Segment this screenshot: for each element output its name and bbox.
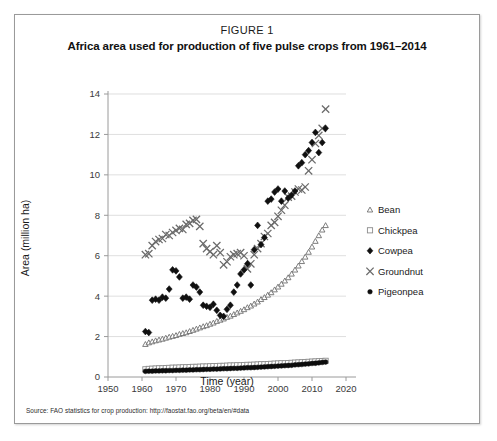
legend-item-bean: Bean — [367, 204, 400, 215]
data-point — [323, 125, 329, 132]
legend-label: Pigeonpea — [378, 286, 424, 297]
y-tick-label: 0 — [95, 371, 100, 382]
data-point — [309, 244, 314, 249]
y-tick-label: 4 — [95, 291, 100, 302]
source-note: Source: FAO statistics for crop producti… — [26, 407, 249, 414]
data-point — [213, 242, 220, 249]
legend-label: Bean — [378, 204, 400, 215]
data-point — [214, 307, 220, 314]
y-tick-label: 6 — [95, 250, 100, 261]
figure-title: Africa area used for production of five … — [15, 38, 479, 55]
x-tick-label: 1960 — [131, 383, 152, 393]
legend-marker-square-icon — [367, 228, 372, 233]
figure-card: FIGURE 1 Africa area used for production… — [14, 14, 480, 424]
x-tick-label: 1950 — [97, 383, 118, 393]
legend-label: Groundnut — [378, 266, 423, 277]
x-axis-label: Time (year) — [200, 375, 253, 387]
y-tick-label: 2 — [95, 331, 100, 342]
x-tick-label: 2010 — [301, 383, 322, 393]
data-point — [200, 240, 207, 247]
data-points — [142, 106, 329, 374]
data-point — [223, 258, 230, 265]
data-point — [217, 249, 224, 256]
data-point — [322, 106, 329, 113]
data-point — [255, 222, 261, 229]
data-point — [234, 282, 240, 289]
data-point — [308, 156, 315, 163]
grid-lines — [108, 94, 346, 337]
x-tick-label: 2020 — [335, 383, 356, 393]
series-groundnut — [142, 106, 329, 273]
legend-item-chickpea: Chickpea — [367, 225, 418, 236]
data-point — [282, 188, 288, 195]
data-point — [323, 360, 328, 365]
chart-plot-area: 02468101214 1950196019701980199020002010… — [15, 63, 481, 393]
legend-marker-triangle-icon — [367, 207, 372, 212]
figure-number: FIGURE 1 — [15, 23, 479, 38]
scatter-chart: 02468101214 1950196019701980199020002010… — [15, 63, 481, 393]
figure-header: FIGURE 1 Africa area used for production… — [15, 23, 479, 55]
data-point — [196, 223, 203, 230]
chart-legend: BeanChickpeaCowpeaGroundnutPigeonpea — [366, 204, 424, 297]
y-tick-label: 8 — [95, 210, 100, 221]
legend-marker-cross-icon — [366, 268, 373, 275]
data-point — [210, 251, 217, 258]
legend-marker-circle-icon — [368, 290, 373, 295]
data-point — [319, 139, 325, 146]
data-point — [313, 238, 318, 243]
legend-item-groundnut: Groundnut — [366, 266, 423, 277]
data-point — [176, 274, 182, 281]
data-point — [305, 167, 312, 174]
data-point — [197, 289, 203, 296]
data-point — [248, 282, 254, 289]
legend-item-pigeonpea: Pigeonpea — [368, 286, 424, 297]
legend-label: Chickpea — [378, 225, 418, 236]
y-axis-label: Area (million ha) — [19, 200, 31, 276]
data-point — [302, 254, 307, 259]
x-tick-label: 1970 — [165, 383, 186, 393]
y-tick-label: 14 — [89, 88, 100, 99]
data-point — [316, 233, 321, 238]
x-tick-label: 2000 — [267, 383, 288, 393]
data-point — [316, 149, 322, 156]
legend-item-cowpea: Cowpea — [367, 245, 413, 256]
data-point — [166, 286, 172, 293]
data-point — [302, 183, 309, 190]
data-point — [323, 223, 328, 228]
data-point — [306, 249, 311, 254]
y-tick-label: 12 — [89, 129, 100, 140]
y-axis-ticks: 02468101214 — [89, 88, 108, 382]
legend-marker-diamond-icon — [367, 248, 373, 255]
data-point — [231, 289, 237, 296]
legend-label: Cowpea — [378, 245, 414, 256]
y-tick-label: 10 — [89, 169, 100, 180]
